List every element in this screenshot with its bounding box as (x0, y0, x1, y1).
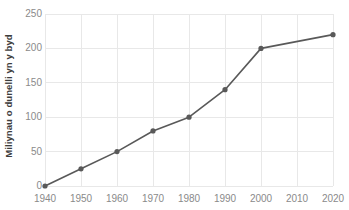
x-axis-tick-label: 1960 (97, 194, 137, 204)
x-axis-tick-label: 1970 (133, 194, 173, 204)
x-axis-tick-label: 2020 (313, 194, 349, 204)
x-axis-tick-label: 2010 (277, 194, 317, 204)
x-axis-tick-label: 1940 (25, 194, 65, 204)
x-axis-tick-label: 1980 (169, 194, 209, 204)
x-axis-tick-label: 2000 (241, 194, 281, 204)
x-axis-tick-label: 1950 (61, 194, 101, 204)
x-axis-tick-label: 1990 (205, 194, 245, 204)
